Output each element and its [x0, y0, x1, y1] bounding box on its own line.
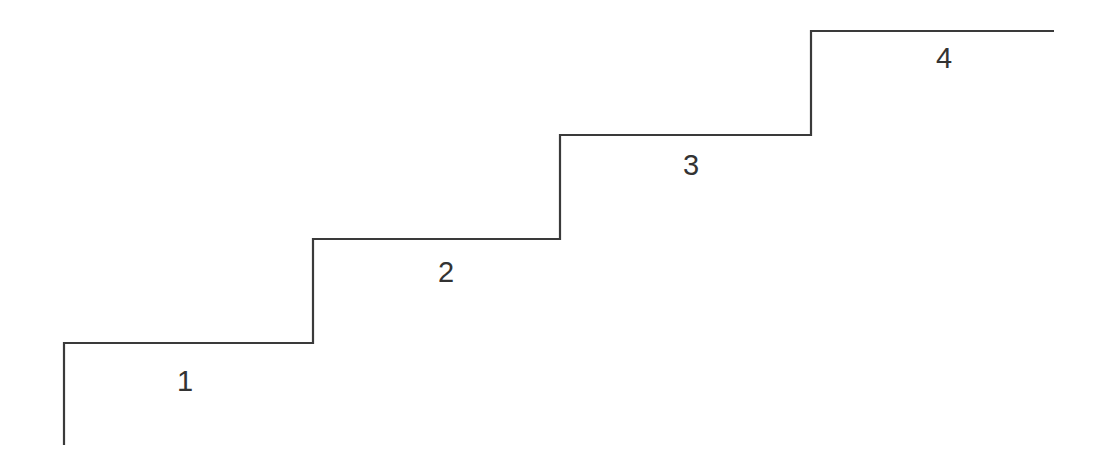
step-label-1: 1 — [177, 367, 193, 396]
step-label-2: 2 — [438, 258, 454, 287]
staircase-line — [64, 31, 1054, 445]
step-label-4: 4 — [936, 44, 952, 73]
staircase-diagram: 1 2 3 4 — [0, 0, 1105, 458]
step-label-3: 3 — [683, 151, 699, 180]
